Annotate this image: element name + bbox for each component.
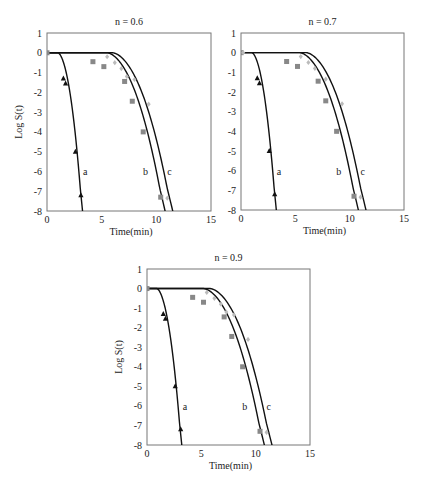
y-tick-label: 1	[231, 28, 236, 39]
curve-label-a: a	[183, 401, 188, 412]
data-point-diamond	[113, 60, 117, 65]
curve-label-c: c	[360, 166, 365, 177]
x-tick-label: 0	[45, 214, 50, 225]
data-point-square	[145, 286, 150, 291]
y-tick-label: -1	[228, 67, 236, 78]
data-point-square	[45, 50, 50, 55]
chart-panel-3: n = 0.910-1-2-3-4-5-6-7-8051015Time(min)…	[113, 252, 315, 472]
x-axis-label: Time(min)	[110, 226, 153, 238]
data-point-square	[122, 79, 127, 84]
x-axis-label: Time(min)	[209, 460, 252, 472]
y-axis-label: Log S(t)	[113, 340, 125, 374]
y-tick-label: -6	[34, 166, 42, 177]
curve-label-c: c	[266, 401, 271, 412]
fit-curve-b	[147, 289, 268, 459]
fit-curve-a	[47, 53, 86, 231]
figure: n = 0.610-1-2-3-4-5-6-7-8051015Time(min)…	[0, 0, 423, 484]
data-point-square	[240, 364, 245, 369]
x-axis-label: Time(min)	[303, 225, 346, 237]
curve-label-c: c	[167, 166, 172, 177]
y-axis-label: Log S(t)	[13, 105, 25, 139]
y-tick-label: -6	[134, 400, 142, 411]
fit-curve-a	[147, 289, 185, 465]
data-point-diamond	[105, 54, 109, 59]
x-tick-label: 5	[293, 213, 298, 224]
y-tick-label: -1	[34, 67, 42, 78]
plot-frame	[147, 269, 310, 445]
y-tick-label: 1	[37, 28, 42, 39]
x-tick-label: 5	[99, 214, 104, 225]
y-tick-label: -4	[134, 361, 142, 372]
data-point-square	[90, 59, 95, 64]
chart-panel-2: n = 0.710-1-2-3-4-5-6-7-8051015Time(min)…	[228, 16, 409, 237]
data-point-triangle	[272, 191, 277, 196]
data-point-square	[130, 99, 135, 104]
chart-panel-1: n = 0.610-1-2-3-4-5-6-7-8051015Time(min)…	[13, 16, 216, 238]
y-tick-label: -5	[34, 146, 42, 157]
x-tick-label: 15	[206, 214, 216, 225]
x-tick-label: 10	[345, 213, 355, 224]
data-point-diamond	[299, 54, 303, 59]
y-tick-label: -2	[134, 322, 142, 333]
fit-curve-c	[241, 53, 369, 224]
x-tick-label: 15	[305, 448, 315, 459]
y-tick-label: -8	[134, 440, 142, 451]
data-point-square	[101, 64, 106, 69]
y-tick-label: -7	[228, 185, 236, 196]
x-tick-label: 0	[145, 448, 150, 459]
y-tick-label: -2	[228, 87, 236, 98]
data-point-square	[158, 195, 163, 200]
chart-title: n = 0.6	[115, 16, 143, 27]
y-tick-label: -4	[228, 126, 236, 137]
x-tick-label: 5	[199, 448, 204, 459]
plot-frame	[241, 33, 404, 210]
y-tick-label: -8	[34, 206, 42, 217]
fit-curve-a	[241, 53, 280, 230]
x-tick-label: 0	[239, 213, 244, 224]
y-tick-label: -7	[134, 420, 142, 431]
data-point-square	[141, 129, 146, 134]
y-tick-label: 0	[37, 47, 42, 58]
data-point-triangle	[173, 383, 178, 388]
y-tick-label: -6	[228, 165, 236, 176]
y-tick-label: -4	[34, 126, 42, 137]
data-point-square	[258, 429, 263, 434]
data-point-square	[295, 64, 300, 69]
data-point-triangle	[78, 192, 83, 197]
x-tick-label: 10	[151, 214, 161, 225]
y-tick-label: -5	[134, 381, 142, 392]
fit-curve-c	[47, 53, 176, 225]
y-tick-label: -2	[34, 87, 42, 98]
curve-label-a: a	[277, 166, 282, 177]
data-point-triangle	[178, 426, 183, 431]
y-tick-label: 0	[231, 47, 236, 58]
data-point-triangle	[61, 75, 66, 80]
data-point-diamond	[306, 60, 310, 65]
data-point-square	[323, 98, 328, 103]
y-tick-label: -1	[134, 303, 142, 314]
plot-area	[239, 50, 370, 230]
curve-label-b: b	[336, 166, 341, 177]
curve-label-a: a	[83, 166, 88, 177]
data-point-square	[352, 194, 357, 199]
data-point-square	[334, 129, 339, 134]
data-point-diamond	[246, 337, 250, 342]
y-tick-label: 1	[137, 264, 142, 275]
fit-curve-b	[47, 53, 168, 226]
y-tick-label: -3	[228, 106, 236, 117]
fit-curve-b	[241, 53, 362, 225]
data-point-square	[229, 334, 234, 339]
data-point-square	[284, 59, 289, 64]
data-point-triangle	[161, 311, 166, 316]
curve-label-b: b	[242, 401, 247, 412]
y-tick-label: -3	[34, 107, 42, 118]
data-point-square	[222, 314, 227, 319]
y-tick-label: -3	[134, 342, 142, 353]
data-point-square	[201, 300, 206, 305]
plot-area	[45, 50, 177, 231]
y-tick-label: -7	[34, 186, 42, 197]
chart-title: n = 0.7	[308, 16, 336, 27]
y-tick-label: -5	[228, 146, 236, 157]
data-point-square	[190, 295, 195, 300]
data-point-triangle	[255, 75, 260, 80]
